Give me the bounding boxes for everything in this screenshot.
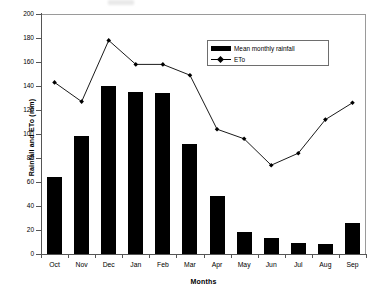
x-tick — [258, 254, 259, 258]
x-tick-label: Sep — [335, 261, 369, 269]
x-tick — [41, 254, 42, 258]
x-tick — [68, 254, 69, 258]
legend-label-rainfall: Mean monthly rainfall — [234, 45, 295, 52]
y-tick-label: 20 — [10, 227, 34, 234]
bar — [128, 92, 143, 254]
x-tick — [95, 254, 96, 258]
y-tick-label: 120 — [10, 107, 34, 114]
legend: Mean monthly rainfall ETo — [207, 40, 329, 66]
y-tick — [36, 86, 42, 87]
y-tick-label: 0 — [10, 251, 34, 258]
bar — [210, 196, 225, 254]
bar — [101, 86, 116, 254]
legend-bar-swatch-icon — [211, 46, 231, 51]
y-tick-label: 100 — [10, 131, 34, 138]
y-tick-label: 60 — [10, 179, 34, 186]
x-tick — [176, 254, 177, 258]
bar — [345, 223, 360, 254]
legend-item-eto: ETo — [211, 54, 245, 65]
y-tick-label: 180 — [10, 35, 34, 42]
bar — [264, 238, 279, 254]
y-tick — [36, 14, 42, 15]
x-tick — [231, 254, 232, 258]
bar — [182, 144, 197, 254]
y-tick-label: 200 — [10, 11, 34, 18]
x-tick — [204, 254, 205, 258]
bar — [318, 244, 333, 254]
x-tick — [285, 254, 286, 258]
y-tick-label: 140 — [10, 83, 34, 90]
y-tick — [36, 230, 42, 231]
y-tick — [36, 158, 42, 159]
y-tick — [36, 62, 42, 63]
y-tick — [36, 110, 42, 111]
bar — [155, 93, 170, 254]
x-tick — [339, 254, 340, 258]
y-tick-label: 160 — [10, 59, 34, 66]
chart-figure: Rainfall and ETo (mm) 020406080100120140… — [0, 0, 379, 293]
x-tick — [122, 254, 123, 258]
legend-item-rainfall: Mean monthly rainfall — [211, 43, 295, 54]
x-tick — [312, 254, 313, 258]
y-tick-label: 80 — [10, 155, 34, 162]
bar — [237, 232, 252, 254]
x-axis-title: Months — [41, 278, 366, 285]
legend-line-swatch-icon — [211, 56, 231, 63]
y-tick — [36, 38, 42, 39]
bar — [74, 136, 89, 254]
x-tick — [366, 254, 367, 258]
bar — [47, 177, 62, 254]
y-tick — [36, 182, 42, 183]
y-tick-label: 40 — [10, 203, 34, 210]
bar — [291, 243, 306, 254]
x-tick — [149, 254, 150, 258]
scan-artifact — [108, 0, 134, 5]
y-tick — [36, 134, 42, 135]
legend-label-eto: ETo — [234, 56, 245, 63]
y-tick — [36, 206, 42, 207]
